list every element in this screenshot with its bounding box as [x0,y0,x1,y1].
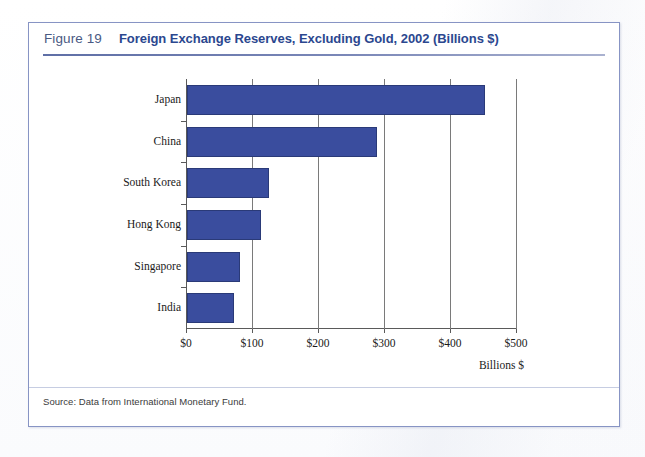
x-axis-tick [318,329,319,333]
x-axis-tick [450,329,451,333]
bar-singapore [187,252,240,282]
bar-japan [187,85,485,115]
x-axis-tick-label: $100 [241,337,264,349]
category-label-singapore: Singapore [41,260,181,272]
bar-india [187,293,234,323]
x-axis-unit-label: Billions $ [479,359,524,371]
bar-south-korea [187,168,269,198]
footer-divider [29,387,619,388]
figure-header: Figure 19 Foreign Exchange Reserves, Exc… [29,23,619,54]
x-axis-tick-label: $0 [180,337,192,349]
figure-number: Figure 19 [44,31,102,46]
bar-china [187,127,377,157]
x-axis-line [186,328,516,329]
x-axis-tick-label: $400 [439,337,462,349]
header-divider [43,54,605,56]
x-axis-tick-label: $200 [307,337,330,349]
y-axis-tick [181,162,186,163]
category-label-japan: Japan [41,93,181,105]
category-axis-labels: JapanChinaSouth KoreaHong KongSingaporeI… [41,79,181,329]
y-axis-tick [181,204,186,205]
x-axis-tick-label: $300 [373,337,396,349]
category-label-south-korea: South Korea [41,176,181,188]
gridline [516,79,517,329]
x-axis-tick [516,329,517,333]
y-axis-tick [181,287,186,288]
y-axis-line [186,79,187,329]
y-axis-tick [181,121,186,122]
gridline [252,79,253,329]
category-label-china: China [41,135,181,147]
chart-area: JapanChinaSouth KoreaHong KongSingaporeI… [29,59,619,377]
category-label-india: India [41,301,181,313]
figure-panel: Figure 19 Foreign Exchange Reserves, Exc… [28,22,620,427]
x-axis-tick [384,329,385,333]
source-note: Source: Data from International Monetary… [43,396,246,407]
gridline [384,79,385,329]
category-label-hong-kong: Hong Kong [41,218,181,230]
x-axis-tick [186,329,187,333]
gridline [450,79,451,329]
x-axis-tick-label: $500 [505,337,528,349]
gridline [318,79,319,329]
x-axis-tick [252,329,253,333]
bar-hong-kong [187,210,261,240]
plot-region: $0$100$200$300$400$500Billions $ [186,79,516,329]
y-axis-tick [181,246,186,247]
figure-title: Foreign Exchange Reserves, Excluding Gol… [119,31,499,46]
